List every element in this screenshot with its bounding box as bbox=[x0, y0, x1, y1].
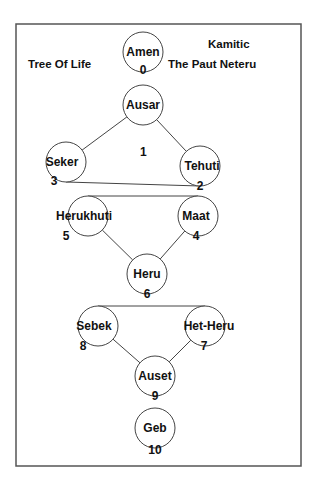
edge-maat-heru bbox=[160, 231, 185, 259]
node-label: Sebek bbox=[76, 319, 112, 333]
node-geb: Geb10 bbox=[135, 408, 175, 457]
node-number: 6 bbox=[144, 287, 151, 301]
diagram-frame bbox=[16, 24, 301, 466]
edge-ausar-seker bbox=[82, 117, 127, 150]
node-amen: Amen0 bbox=[123, 32, 163, 77]
node-auset: Auset9 bbox=[135, 356, 175, 403]
node-number: 9 bbox=[152, 389, 159, 403]
node-number: 10 bbox=[148, 443, 162, 457]
node-het-heru: Het-Heru7 bbox=[184, 306, 235, 353]
node-number: 3 bbox=[51, 174, 58, 188]
node-number: 7 bbox=[201, 339, 208, 353]
node-seker: Seker3 bbox=[46, 142, 86, 188]
title-right-paut-neteru: The Paut Neteru bbox=[168, 58, 256, 70]
node-number: 8 bbox=[80, 339, 87, 353]
node-ausar: Ausar bbox=[123, 85, 163, 125]
node-sebek: Sebek8 bbox=[76, 306, 118, 353]
node-label: Heru bbox=[133, 267, 160, 281]
node-label: Ausar bbox=[126, 98, 160, 112]
center-number: 1 bbox=[140, 145, 147, 159]
node-label: Seker bbox=[46, 155, 79, 169]
node-heru: Heru6 bbox=[127, 254, 167, 301]
node-maat: Maat4 bbox=[178, 196, 218, 243]
edge-herukhuti-heru bbox=[102, 230, 132, 260]
edge-het-heru-auset bbox=[169, 340, 191, 362]
title-left: Tree Of Life bbox=[28, 58, 91, 70]
node-label: Geb bbox=[143, 421, 166, 435]
node-label: Tehuti bbox=[184, 159, 219, 173]
tree-of-life-diagram: Tree Of Life Kamitic The Paut Neteru 1 A… bbox=[0, 0, 313, 489]
node-herukhuti: Herukhuti5 bbox=[56, 196, 112, 243]
node-label: Amen bbox=[126, 45, 159, 59]
edge-seker-tehuti bbox=[66, 182, 200, 186]
node-number: 0 bbox=[140, 63, 147, 77]
edge-sebek-auset bbox=[113, 339, 140, 363]
node-label: Maat bbox=[182, 209, 209, 223]
node-number: 4 bbox=[193, 229, 200, 243]
title-right-kamitic: Kamitic bbox=[208, 38, 250, 50]
edge-ausar-tehuti bbox=[157, 120, 187, 152]
node-label: Het-Heru bbox=[184, 319, 235, 333]
node-number: 2 bbox=[197, 179, 204, 193]
node-label: Auset bbox=[138, 369, 171, 383]
node-number: 5 bbox=[63, 229, 70, 243]
nodes-layer: Amen0AusarTehuti2Seker3Maat4Herukhuti5He… bbox=[46, 32, 235, 457]
node-label: Herukhuti bbox=[56, 209, 112, 223]
